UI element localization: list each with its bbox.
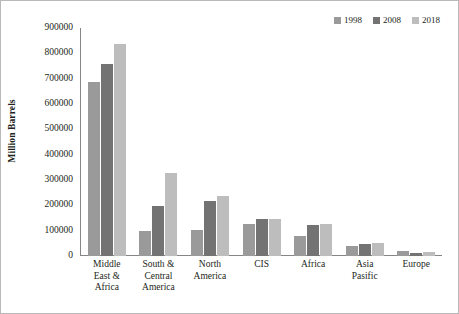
x-axis-tick-label-line: America: [184, 271, 236, 283]
legend-entry[interactable]: 2008: [373, 16, 401, 25]
bar[interactable]: [320, 224, 332, 256]
x-axis-tick-label: South &CentralAmerica: [133, 259, 185, 294]
x-axis-tick-label-line: North: [184, 259, 236, 271]
bar[interactable]: [359, 244, 371, 256]
chart-legend: 199820082018: [334, 14, 440, 26]
bar[interactable]: [423, 252, 435, 256]
bar[interactable]: [410, 253, 422, 256]
x-axis-tick-label-line: America: [133, 282, 185, 294]
x-axis-tick-label: AsiaPasific: [339, 259, 391, 294]
x-axis-tick-label-line: Africa: [287, 259, 339, 271]
bar[interactable]: [372, 243, 384, 256]
x-axis-tick-label: NorthAmerica: [184, 259, 236, 294]
bar[interactable]: [346, 246, 358, 256]
bar[interactable]: [243, 224, 255, 256]
x-axis-tick-label-line: Central: [133, 271, 185, 283]
y-axis-tick-labels: 9000008000007000006000005000004000003000…: [21, 28, 77, 256]
y-axis-tick-label: 0: [68, 251, 73, 261]
legend-swatch-icon: [373, 17, 380, 24]
x-axis-tick-labels: MiddleEast &AfricaSouth &CentralAmericaN…: [81, 259, 442, 294]
x-axis-tick-label-line: Middle: [81, 259, 133, 271]
x-axis-tick-label: CIS: [236, 259, 288, 294]
y-axis-title-text: Million Barrels: [7, 99, 17, 162]
x-axis-tick-label-line: East &: [81, 271, 133, 283]
x-axis-tick-label-line: Asia: [339, 259, 391, 271]
bar[interactable]: [101, 64, 113, 256]
bar-group: [287, 28, 339, 256]
y-axis-tick-label: 900000: [45, 23, 74, 33]
bar[interactable]: [152, 206, 164, 256]
y-axis-tick-label: 600000: [45, 99, 74, 109]
y-axis-tick-label: 800000: [45, 49, 74, 59]
bar-group: [81, 28, 133, 256]
bar-chart-figure: 199820082018 Million Barrels 90000080000…: [0, 0, 459, 314]
y-axis-tick-label: 300000: [45, 175, 74, 185]
y-axis-tick-label: 200000: [45, 201, 74, 211]
y-axis-tick-label: 700000: [45, 74, 74, 84]
bar[interactable]: [269, 219, 281, 256]
legend-swatch-icon: [412, 17, 419, 24]
bar[interactable]: [397, 251, 409, 256]
bar[interactable]: [114, 44, 126, 256]
x-axis-tick-label-line: Africa: [81, 282, 133, 294]
plot-area: [80, 28, 442, 256]
legend-swatch-icon: [334, 17, 341, 24]
bar[interactable]: [139, 231, 151, 256]
legend-entry[interactable]: 2018: [412, 16, 440, 25]
y-axis-tick-label: 400000: [45, 150, 74, 160]
bar[interactable]: [191, 230, 203, 256]
x-axis-tick-label-line: CIS: [236, 259, 288, 271]
x-axis-tick-label: Africa: [287, 259, 339, 294]
x-axis-tick-label-line: South &: [133, 259, 185, 271]
bar-group: [184, 28, 236, 256]
bar-group: [390, 28, 442, 256]
x-axis-tick-label: MiddleEast &Africa: [81, 259, 133, 294]
x-axis-tick-label: Europe: [390, 259, 442, 294]
bar-groups: [81, 28, 442, 256]
bar[interactable]: [307, 225, 319, 256]
legend-label: 1998: [344, 16, 362, 25]
bar[interactable]: [165, 173, 177, 256]
bar[interactable]: [256, 219, 268, 256]
bar-group: [339, 28, 391, 256]
bar[interactable]: [217, 196, 229, 256]
legend-label: 2018: [422, 16, 440, 25]
legend-label: 2008: [383, 16, 401, 25]
bar[interactable]: [294, 236, 306, 256]
bar[interactable]: [88, 82, 100, 256]
y-axis-tick-label: 100000: [45, 226, 74, 236]
bar[interactable]: [204, 201, 216, 256]
bar-group: [133, 28, 185, 256]
y-axis-title: Million Barrels: [3, 1, 21, 261]
legend-entry[interactable]: 1998: [334, 16, 362, 25]
y-axis-tick-label: 500000: [45, 125, 74, 135]
x-axis-tick-label-line: Pasific: [339, 271, 391, 283]
x-axis-tick-label-line: Europe: [390, 259, 442, 271]
bar-group: [236, 28, 288, 256]
